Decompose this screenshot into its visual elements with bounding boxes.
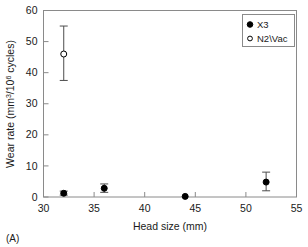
y-tick-label: 0 [32, 191, 38, 203]
y-axis-title-mid: /10 [4, 79, 16, 94]
legend-label: N2\Vac [257, 33, 288, 44]
x-tick-label: 50 [240, 202, 252, 214]
x-tick-label: 45 [189, 202, 201, 214]
legend-label: X3 [257, 19, 269, 30]
y-tick-label: 50 [26, 35, 38, 47]
data-point-open [61, 51, 67, 57]
legend-marker-open [248, 36, 253, 41]
y-tick-label: 10 [26, 160, 38, 172]
data-point-filled [263, 179, 269, 185]
legend-marker-filled [247, 22, 253, 28]
x-axis-title: Head size (mm) [133, 220, 207, 232]
data-point-filled [182, 193, 188, 199]
y-axis-title: Wear rate (mm3/106 cycles) [4, 40, 16, 168]
figure-panel-a: 0102030405060 303540455055 Head size (mm… [0, 0, 308, 247]
y-tick-label: 30 [26, 97, 38, 109]
y-axis-title-tail: cycles) [4, 40, 16, 76]
y-tick-label: 20 [26, 128, 38, 140]
x-tick-label: 30 [38, 202, 50, 214]
x-tick-label: 35 [88, 202, 100, 214]
panel-label: (A) [6, 233, 19, 244]
y-tick-label: 60 [26, 4, 38, 16]
x-tick-label: 55 [291, 202, 303, 214]
data-point-filled [61, 190, 67, 196]
y-axis-title-lead: Wear rate (mm [4, 98, 16, 168]
y-axis-title-group: Wear rate (mm3/106 cycles) [4, 40, 16, 168]
y-tick-label: 40 [26, 66, 38, 78]
x-tick-label: 40 [139, 202, 151, 214]
wear-rate-scatter-chart: 0102030405060 303540455055 Head size (mm… [0, 0, 308, 247]
chart-legend: X3N2\Vac [243, 15, 295, 47]
data-point-filled [101, 185, 107, 191]
